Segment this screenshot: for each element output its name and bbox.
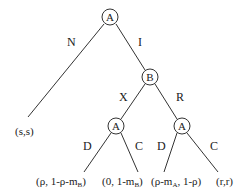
- payoff-leaf-3: (ρ-mA, 1-ρ): [151, 175, 201, 191]
- edge-r: [155, 84, 177, 119]
- node-root-label: A: [102, 12, 118, 23]
- edge-label-right-c: C: [210, 140, 218, 152]
- edge-label-r: R: [176, 91, 184, 103]
- edge-label-right-d: D: [157, 140, 166, 152]
- node-b-label: B: [142, 72, 158, 83]
- edge-label-left-d: D: [83, 140, 92, 152]
- edge-label-left-c: C: [135, 140, 143, 152]
- edge-label-x: X: [119, 91, 128, 103]
- payoff-ss: (s,s): [15, 125, 34, 137]
- node-a-right-label: A: [174, 121, 190, 132]
- payoff-leaf-2: (0, 1-mB): [102, 175, 143, 191]
- payoff-leaf-1: (ρ, 1-ρ-mB): [36, 175, 86, 191]
- node-a-left-label: A: [108, 121, 124, 132]
- edge-label-n: N: [67, 36, 76, 48]
- edge-n: [28, 24, 104, 117]
- payoff-leaf-4: (r,r): [216, 175, 233, 187]
- edge-label-i: I: [138, 36, 142, 48]
